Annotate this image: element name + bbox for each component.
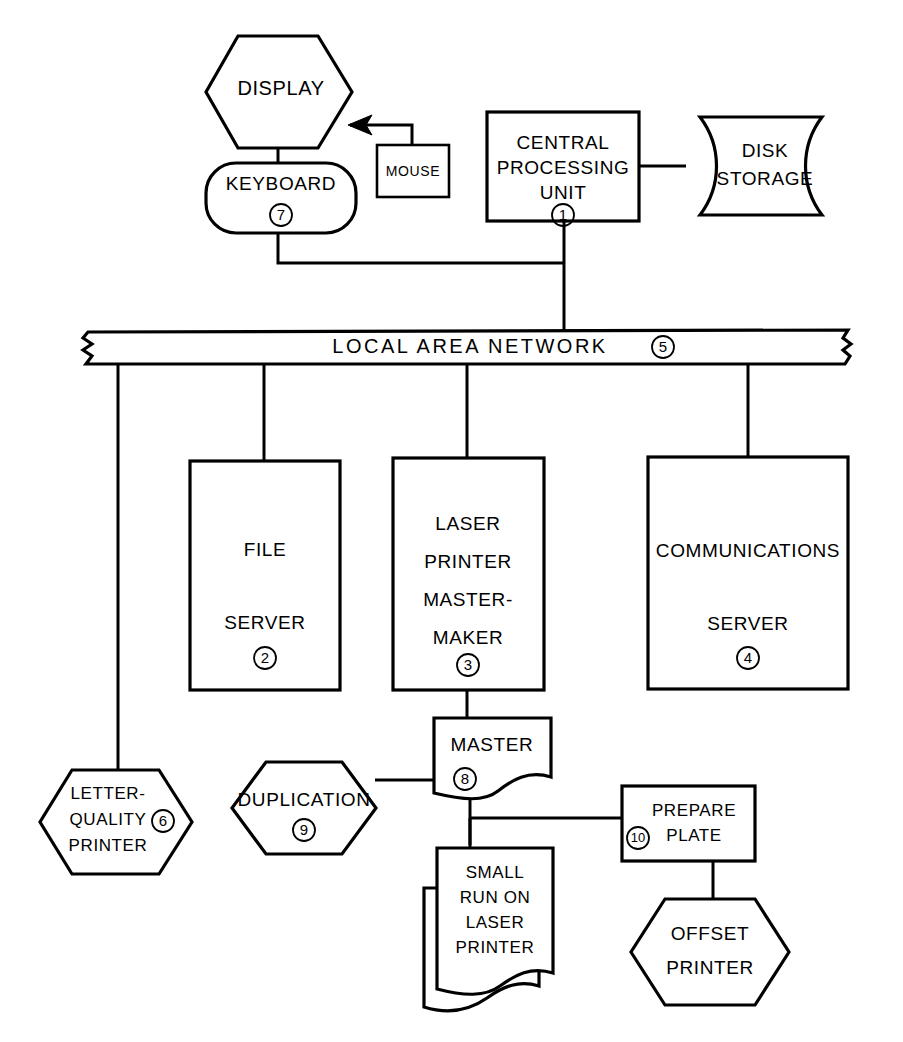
letter-quality-printer-label-line3: PRINTER <box>69 836 148 855</box>
node-file-server[interactable]: FILE SERVER 2 <box>190 461 340 690</box>
node-communications-server[interactable]: COMMUNICATIONS SERVER 4 <box>648 457 848 689</box>
keyboard-ref-number: 7 <box>277 206 285 223</box>
master-ref-number: 8 <box>461 770 469 787</box>
node-letter-quality-printer[interactable]: LETTER- QUALITY PRINTER 6 <box>40 770 192 874</box>
laser-mastermaker-label-line1: LASER <box>435 513 500 534</box>
connector-keyboard-cpu-trunk <box>278 233 564 263</box>
network-publishing-flow-diagram: DISPLAY MOUSE KEYBOARD 7 CENTRAL PROCESS… <box>0 0 903 1042</box>
master-document-shape <box>434 718 551 799</box>
diagram-canvas: DISPLAY MOUSE KEYBOARD 7 CENTRAL PROCESS… <box>0 0 903 1042</box>
offset-printer-hexagon-shape <box>631 899 789 1005</box>
laser-mastermaker-label-line3: MASTER- <box>423 589 513 610</box>
laser-mastermaker-label-line2: PRINTER <box>424 551 512 572</box>
file-server-label-line2: SERVER <box>224 612 305 633</box>
disk-storage-label-line2: STORAGE <box>717 168 814 189</box>
offset-printer-label-line1: OFFSET <box>671 923 750 944</box>
node-master[interactable]: MASTER 8 <box>434 718 551 799</box>
node-offset-printer[interactable]: OFFSET PRINTER <box>631 899 789 1005</box>
lan-label: LOCAL AREA NETWORK <box>332 335 607 357</box>
node-duplication[interactable]: DUPLICATION 9 <box>232 762 376 854</box>
disk-storage-label-line1: DISK <box>742 140 789 161</box>
prepare-plate-label-line2: PLATE <box>666 826 722 845</box>
small-run-label-line4: PRINTER <box>456 938 535 957</box>
node-display[interactable]: DISPLAY <box>206 36 352 148</box>
letter-quality-printer-ref-number: 6 <box>159 812 167 829</box>
node-disk-storage[interactable]: DISK STORAGE <box>700 117 822 215</box>
display-label: DISPLAY <box>237 77 324 99</box>
prepare-plate-label-line1: PREPARE <box>652 801 736 820</box>
node-laser-printer-mastermaker[interactable]: LASER PRINTER MASTER- MAKER 3 <box>393 458 544 690</box>
keyboard-label: KEYBOARD <box>226 173 336 194</box>
offset-printer-label-line2: PRINTER <box>666 957 754 978</box>
prepare-plate-rect-shape <box>622 786 755 861</box>
cpu-label-line3: UNIT <box>540 182 587 203</box>
duplication-ref-number: 9 <box>300 821 308 838</box>
laser-mastermaker-ref-number: 3 <box>464 656 472 673</box>
node-mouse[interactable]: MOUSE <box>377 145 449 197</box>
letter-quality-printer-label-line2: QUALITY <box>70 810 147 829</box>
master-label: MASTER <box>451 734 534 755</box>
prepare-plate-ref-number: 10 <box>631 830 645 845</box>
communications-server-label-line1: COMMUNICATIONS <box>656 540 840 561</box>
node-central-processing-unit[interactable]: CENTRAL PROCESSING UNIT 1 <box>487 112 639 226</box>
file-server-label-line1: FILE <box>244 539 287 560</box>
mouse-label: MOUSE <box>386 163 440 179</box>
small-run-label-line1: SMALL <box>466 863 525 882</box>
laser-mastermaker-label-line4: MAKER <box>433 627 504 648</box>
lan-ref-number: 5 <box>659 338 667 355</box>
file-server-ref-number: 2 <box>261 649 269 666</box>
node-prepare-plate[interactable]: PREPARE PLATE 10 <box>622 786 755 861</box>
small-run-label-line3: LASER <box>466 913 525 932</box>
cpu-ref-number: 1 <box>559 206 567 223</box>
communications-server-label-line2: SERVER <box>707 613 788 634</box>
communications-server-ref-number: 4 <box>744 649 752 666</box>
node-local-area-network[interactable]: LOCAL AREA NETWORK 5 <box>83 330 851 364</box>
disk-storage-stored-data-shape <box>700 117 822 215</box>
small-run-label-line2: RUN ON <box>460 888 531 907</box>
node-keyboard[interactable]: KEYBOARD 7 <box>206 163 356 233</box>
letter-quality-printer-label-line1: LETTER- <box>70 784 145 803</box>
duplication-label: DUPLICATION <box>238 789 371 810</box>
node-small-run-on-laser-printer[interactable]: SMALL RUN ON LASER PRINTER <box>424 848 553 1011</box>
cpu-label-line1: CENTRAL <box>517 132 610 153</box>
cpu-label-line2: PROCESSING <box>497 157 630 178</box>
